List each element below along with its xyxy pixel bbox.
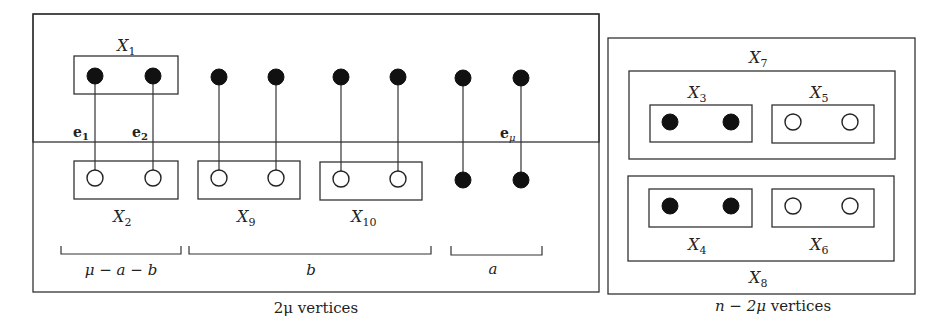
right-panel-border bbox=[608, 38, 915, 294]
label-x2: X2 bbox=[111, 207, 131, 229]
brace-b bbox=[189, 246, 431, 254]
vertex-filled bbox=[662, 198, 678, 214]
label-x3: X3 bbox=[686, 83, 706, 105]
vertex-filled bbox=[333, 69, 349, 85]
figure-main: X1 X2 X9 X10 e1 e2 eμ μ − a − b b a 2μ v… bbox=[0, 0, 943, 334]
vertex-filled bbox=[662, 114, 678, 130]
label-x8: X8 bbox=[747, 268, 767, 290]
vertex-filled bbox=[455, 70, 471, 86]
vertex-filled bbox=[145, 68, 161, 84]
label-x7: X7 bbox=[747, 48, 767, 70]
vertex-filled bbox=[513, 70, 529, 86]
label-x10: X10 bbox=[349, 207, 376, 229]
vertex-filled bbox=[390, 69, 406, 85]
brace-mu-a-b bbox=[61, 246, 181, 254]
label-x1: X1 bbox=[115, 36, 135, 58]
vertex-filled bbox=[455, 172, 471, 188]
vertex-open bbox=[333, 171, 349, 187]
vertex-filled bbox=[87, 68, 103, 84]
right-caption: n − 2μ vertices bbox=[715, 297, 831, 315]
vertex-open bbox=[785, 198, 801, 214]
label-x6: X6 bbox=[808, 235, 828, 257]
brace-label-mu-a-b: μ − a − b bbox=[85, 261, 158, 279]
vertex-open bbox=[268, 170, 284, 186]
left-caption: 2μ vertices bbox=[274, 299, 358, 317]
vertex-open bbox=[842, 114, 858, 130]
brace-label-b: b bbox=[306, 261, 316, 279]
label-emu: eμ bbox=[500, 125, 515, 143]
vertex-open bbox=[390, 171, 406, 187]
brace-a bbox=[451, 246, 542, 255]
vertex-filled bbox=[513, 172, 529, 188]
brace-label-a: a bbox=[489, 260, 498, 278]
vertex-filled bbox=[211, 69, 227, 85]
vertex-open bbox=[87, 170, 103, 186]
vertex-filled bbox=[268, 69, 284, 85]
label-e2: e2 bbox=[132, 124, 148, 142]
label-e1: e1 bbox=[73, 124, 89, 142]
vertex-filled bbox=[723, 114, 739, 130]
vertex-open bbox=[842, 198, 858, 214]
vertex-open bbox=[145, 170, 161, 186]
vertex-filled bbox=[723, 198, 739, 214]
label-x5: X5 bbox=[808, 83, 828, 105]
vertex-open bbox=[211, 170, 227, 186]
label-x9: X9 bbox=[235, 207, 255, 229]
vertex-open bbox=[785, 114, 801, 130]
label-x4: X4 bbox=[686, 235, 706, 257]
